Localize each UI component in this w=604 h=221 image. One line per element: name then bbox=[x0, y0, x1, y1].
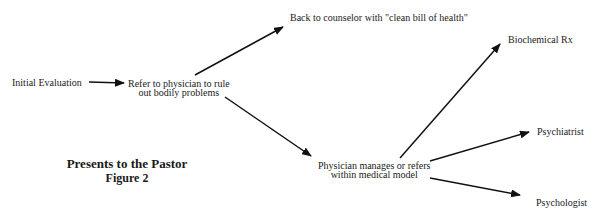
node-psychologist: Psychologist bbox=[536, 198, 587, 207]
node-physician-manages: Physician manages or refers within medic… bbox=[318, 161, 430, 179]
node-label: Psychologist bbox=[536, 197, 587, 208]
node-biochemical-rx: Biochemical Rx bbox=[508, 35, 573, 44]
arrow-manages-to-psychologist bbox=[430, 178, 520, 195]
arrow-refer-to-back bbox=[195, 27, 283, 75]
node-label: Biochemical Rx bbox=[508, 34, 573, 45]
arrow-initial-to-refer bbox=[89, 82, 124, 83]
figure-caption: Presents to the Pastor Figure 2 bbox=[52, 156, 202, 186]
figure-title: Presents to the Pastor bbox=[52, 156, 202, 171]
arrow-manages-to-psychiatrist bbox=[430, 132, 529, 161]
node-label: Psychiatrist bbox=[537, 126, 584, 137]
node-label-line2: within medical model bbox=[318, 170, 430, 179]
node-psychiatrist: Psychiatrist bbox=[537, 127, 584, 136]
node-label: Back to counselor with "clean bill of he… bbox=[290, 12, 468, 23]
node-back-to-counselor: Back to counselor with "clean bill of he… bbox=[290, 13, 468, 22]
arrow-manages-to-biochem bbox=[400, 44, 500, 158]
node-label-line2: out bodily problems bbox=[128, 88, 230, 97]
node-refer-to-physician: Refer to physician to rule out bodily pr… bbox=[128, 79, 230, 97]
figure-number: Figure 2 bbox=[52, 171, 202, 186]
node-initial-evaluation: Initial Evaluation bbox=[12, 78, 82, 87]
arrow-refer-to-manages bbox=[225, 97, 311, 156]
node-label: Initial Evaluation bbox=[12, 77, 82, 88]
